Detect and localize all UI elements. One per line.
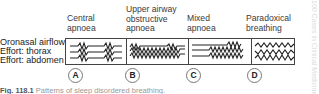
breathing-patterns-box [65,38,295,65]
column-header-paradoxical-breathing: Paradoxical breathing [246,14,291,33]
panel-d-waves [255,43,294,60]
label-circle-a: A [68,68,83,83]
header-line: apnoea [126,24,177,34]
column-header-mixed-apnoea: Mixed apnoea [187,14,216,33]
header-line: apnoea [67,24,96,34]
caption-text: Patterns of sleep disordered breathing. [34,86,165,94]
waveform-traces [66,39,296,66]
panel-b-waves [130,44,185,58]
figure-caption: Fig. 118.1 Patterns of sleep disordered … [0,86,165,94]
header-line: apnoea [187,24,216,34]
label-circle-d: D [247,68,262,83]
row-label-effort-abdomen: Effort: abdomen [0,56,64,65]
panel-a-waves [70,43,122,61]
header-line: breathing [246,24,291,34]
label-circle-c: C [186,68,201,83]
label-circle-b: B [125,68,140,83]
watermark-text: 100 Cases in Clinical Medicine [311,0,318,94]
column-header-central-apnoea: Central apnoea [67,14,96,33]
column-header-upper-airway-obstructive-apnoea: Upper airway obstructive apnoea [126,5,177,34]
panel-c-waves [192,42,243,58]
figure-number: Fig. 118.1 [0,86,34,94]
